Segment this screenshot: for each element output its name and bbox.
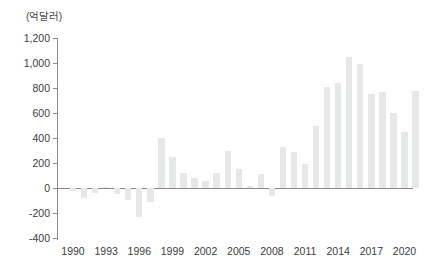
bar [70, 188, 76, 191]
y-axis-tick [53, 113, 58, 114]
x-axis-tick-label: 2011 [294, 245, 317, 257]
bar [258, 174, 264, 188]
y-axis-tick [53, 138, 58, 139]
bar [92, 188, 98, 193]
y-axis-tick-label: 1,000 [4, 57, 50, 69]
x-axis-tick-label: 2014 [327, 245, 350, 257]
bar [225, 151, 231, 189]
x-axis-tick-label: 2002 [194, 245, 217, 257]
x-axis-tick-label: 2008 [260, 245, 283, 257]
y-axis-tick [53, 188, 58, 189]
bar [169, 157, 175, 188]
x-axis-tick-label: 1990 [61, 245, 84, 257]
bar [390, 113, 396, 188]
bar [291, 152, 297, 188]
bar [103, 187, 109, 188]
bar [346, 57, 352, 188]
zero-baseline [58, 188, 413, 189]
bar [125, 188, 131, 200]
y-axis-tick-label: 400 [4, 132, 50, 144]
x-axis-tick-label: 2005 [227, 245, 250, 257]
y-axis-tick [53, 38, 58, 39]
bar [280, 147, 286, 188]
bar [302, 164, 308, 188]
bar [313, 126, 319, 189]
y-axis-tick [53, 213, 58, 214]
x-axis-tick-label: 1996 [128, 245, 151, 257]
y-axis-tick [53, 238, 58, 239]
bar [147, 188, 153, 202]
bar [114, 188, 120, 194]
y-axis-tick [53, 63, 58, 64]
y-axis-tick-label: -200 [4, 207, 50, 219]
bar [158, 138, 164, 188]
y-axis-tick [53, 88, 58, 89]
y-axis-tick [53, 163, 58, 164]
bar [368, 94, 374, 188]
bar [247, 186, 253, 189]
x-axis-tick-label: 2017 [360, 245, 383, 257]
bar [180, 173, 186, 188]
y-axis-tick-label: 800 [4, 82, 50, 94]
bar [191, 178, 197, 188]
x-axis-tick-label: 1993 [94, 245, 117, 257]
bar-chart: (억달러) 1,2001,0008006004002000-200-400 19… [0, 0, 429, 275]
bar [324, 87, 330, 188]
bar [213, 173, 219, 188]
y-axis-tick-label: 200 [4, 157, 50, 169]
bar [269, 188, 275, 196]
bar [357, 64, 363, 188]
x-axis-tick-label: 1999 [161, 245, 184, 257]
bar [81, 188, 87, 198]
y-axis-tick-label: 600 [4, 107, 50, 119]
y-axis-tick-label: 0 [4, 182, 50, 194]
y-axis-line [57, 38, 58, 240]
bar [401, 132, 407, 188]
bar [136, 188, 142, 217]
x-axis-tick-label: 2020 [393, 245, 416, 257]
y-axis-tick-label: -400 [4, 232, 50, 244]
bar [335, 83, 341, 188]
bar [379, 92, 385, 188]
bar [236, 169, 242, 188]
bar [202, 181, 208, 188]
bar [412, 91, 418, 189]
y-axis-tick-label: 1,200 [4, 32, 50, 44]
y-axis-unit-label: (억달러) [26, 8, 62, 23]
